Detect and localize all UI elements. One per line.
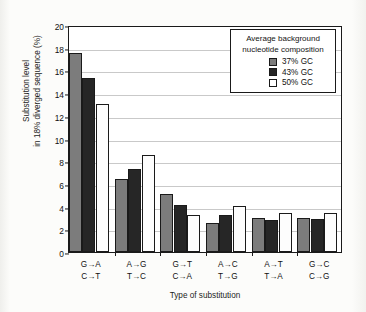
bar — [219, 215, 232, 252]
legend-entry: 50% GC — [236, 78, 330, 87]
legend-entry: 37% GC — [236, 57, 330, 66]
bar — [128, 169, 141, 252]
x-axis-category-label: G→T C→A — [159, 259, 205, 282]
legend-entry: 43% GC — [236, 68, 330, 77]
legend-label: 37% GC — [282, 57, 330, 66]
x-axis-title: Type of substitution — [68, 291, 342, 300]
bar — [297, 218, 310, 252]
x-axis-category-label: G→C C→G — [296, 259, 342, 282]
legend-swatch — [269, 68, 277, 76]
bar-group — [160, 27, 200, 252]
bar — [160, 194, 173, 252]
bar — [69, 53, 82, 252]
legend-title: Average background nucleotide compositio… — [236, 34, 330, 55]
bar — [311, 219, 324, 252]
bar — [265, 220, 278, 252]
bar — [206, 223, 219, 252]
bar-group — [115, 27, 155, 252]
y-axis-title: Substitution level in 18% diverged seque… — [21, 0, 43, 186]
legend-swatch — [269, 79, 277, 87]
bar — [82, 78, 95, 252]
bar — [252, 218, 265, 252]
bar — [96, 104, 109, 252]
legend-label: 43% GC — [282, 68, 330, 77]
bar — [142, 155, 155, 252]
bar — [233, 206, 246, 252]
x-axis-category-label: A→C T→G — [205, 259, 251, 282]
bar — [115, 179, 128, 252]
x-axis-tick-mark — [252, 252, 253, 256]
x-axis-tick-mark — [206, 252, 207, 256]
bar — [174, 205, 187, 252]
x-axis-category-label: A→G T→C — [114, 259, 160, 282]
chart-figure: Substitution level in 18% diverged seque… — [0, 0, 366, 312]
legend: Average background nucleotide compositio… — [230, 29, 336, 93]
legend-entries: 37% GC43% GC50% GC — [236, 57, 330, 87]
bar — [324, 213, 337, 252]
bar — [279, 213, 292, 252]
y-axis-tick-mark — [65, 253, 69, 254]
bar — [187, 215, 200, 252]
x-axis-tick-mark — [115, 252, 116, 256]
legend-label: 50% GC — [282, 78, 330, 87]
x-axis-tick-mark — [160, 252, 161, 256]
legend-swatch — [269, 58, 277, 66]
x-axis-category-label: G→A C→T — [68, 259, 114, 282]
x-axis-category-label: A→T T→A — [251, 259, 297, 282]
bar-group — [69, 27, 109, 252]
x-axis-tick-mark — [297, 252, 298, 256]
